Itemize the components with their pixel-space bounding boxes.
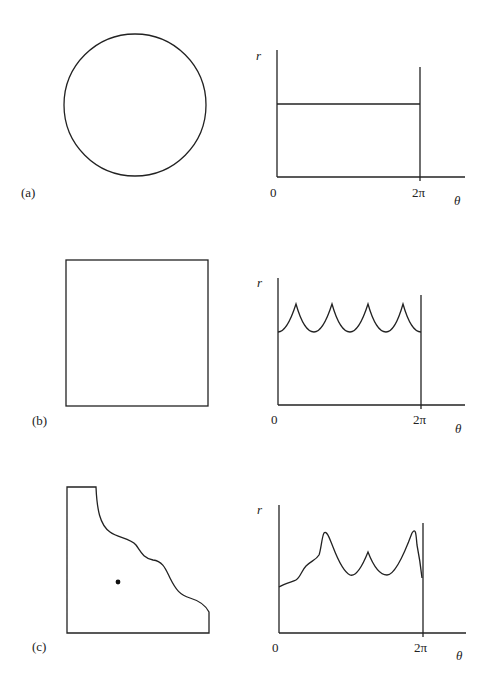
x-axis-label: θ (455, 421, 462, 436)
r-curve (278, 304, 421, 332)
x-tick-two-pi: 2π (412, 185, 426, 200)
panel-b: (b) r 0 2π θ (32, 260, 465, 436)
irregular-shape (67, 487, 209, 633)
x-tick-zero: 0 (271, 412, 278, 427)
plot-b: r 0 2π θ (257, 275, 465, 436)
y-axis-label: r (257, 275, 263, 290)
plot-c: r 0 2π θ (257, 502, 466, 663)
center-point (116, 580, 121, 585)
panel-a: (a) r 0 2π θ (21, 34, 465, 208)
panel-label-a: (a) (21, 185, 35, 200)
panel-label-c: (c) (32, 639, 46, 654)
figure-canvas: (a) r 0 2π θ (b) r 0 2π θ (c) (0, 0, 491, 677)
y-axis-label: r (257, 502, 263, 517)
square-shape (66, 260, 208, 406)
x-tick-zero: 0 (270, 185, 277, 200)
y-axis-label: r (256, 48, 262, 63)
x-tick-two-pi: 2π (413, 412, 427, 427)
panel-label-b: (b) (32, 413, 47, 428)
x-tick-zero: 0 (272, 640, 279, 655)
panel-c: (c) r 0 2π θ (32, 487, 466, 663)
plot-a: r 0 2π θ (256, 48, 465, 208)
x-axis-label: θ (456, 648, 463, 663)
circle-shape (64, 34, 206, 176)
x-axis-label: θ (454, 193, 461, 208)
x-tick-two-pi: 2π (414, 640, 428, 655)
r-curve (279, 531, 422, 587)
